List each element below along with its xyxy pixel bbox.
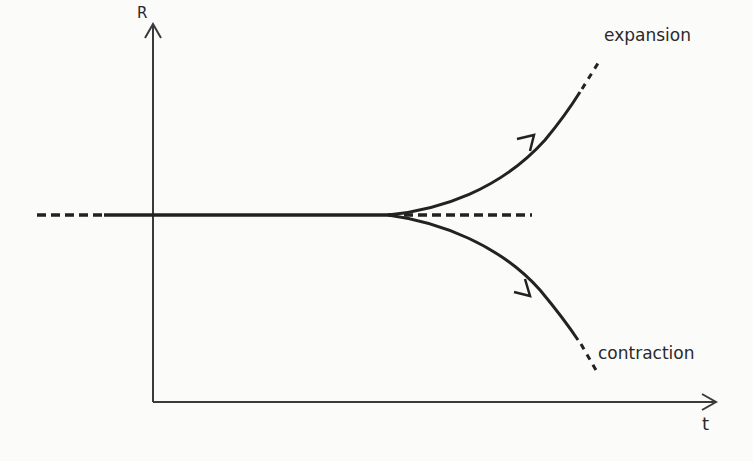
expansion-curve [388, 60, 600, 215]
contraction-label: contraction [598, 343, 695, 363]
diagram-canvas: R t expansion contraction [0, 0, 753, 461]
y-axis [145, 24, 161, 402]
y-axis-label: R [137, 4, 147, 22]
x-axis [153, 394, 716, 410]
contraction-curve [388, 215, 597, 372]
diagram-svg [0, 0, 753, 461]
x-axis-label: t [702, 413, 709, 434]
expansion-label: expansion [604, 25, 691, 45]
